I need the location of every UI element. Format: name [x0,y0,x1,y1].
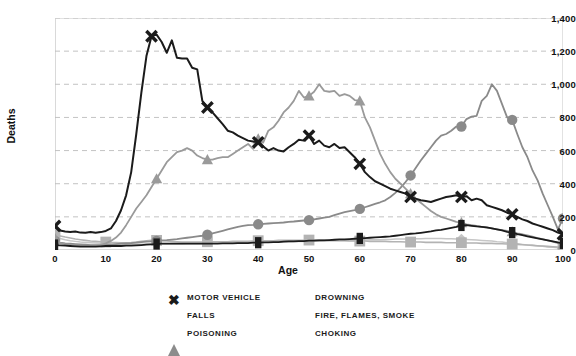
y-axis-tick: 1,200 [528,46,576,57]
rect-data-marker [357,233,363,244]
x-data-marker [355,159,365,169]
square-data-marker [456,237,467,248]
circle-marker-icon [168,309,181,322]
rect-data-marker [55,239,58,250]
rect-data-marker [153,238,159,249]
x-axis-tick: 20 [137,253,177,264]
circle-data-marker [202,230,212,240]
x-data-marker [55,221,60,231]
x-axis-tick: 90 [492,253,532,264]
x-marker-icon: ✖ [168,291,181,304]
y-axis-tick: 400 [528,178,576,189]
x-axis-tick: 30 [187,253,227,264]
square-marker-icon [296,291,309,304]
legend-label: POISONING [187,329,237,338]
chart-legend: ✖MOTOR VEHICLEDROWNINGFALLSFIRE, FLAMES,… [168,288,498,342]
circle-data-marker [355,204,365,214]
x-data-marker [507,209,517,219]
legend-label: CHOKING [315,329,357,338]
y-axis-label-wrap: Deaths [0,96,17,176]
circle-data-marker [253,219,263,229]
legend-label: MOTOR VEHICLE [187,293,261,302]
circle-data-marker [405,170,415,180]
y-axis-label: Deaths [5,91,17,161]
y-axis-tick: 600 [528,145,576,156]
x-axis-tick: 10 [86,253,126,264]
series-motor-vehicle [55,31,563,239]
circle-data-marker [456,121,466,131]
y-axis-tick: 1,400 [528,13,576,24]
legend-item-falls[interactable]: FALLS [168,306,296,324]
plot-canvas [55,18,563,250]
rect-data-marker [458,220,464,231]
triangle-marker-icon [168,327,181,340]
y-axis-tick: 200 [528,211,576,222]
legend-label: FIRE, FLAMES, SMOKE [315,311,415,320]
triangle-data-marker [151,173,162,183]
rect-data-marker [509,227,515,238]
legend-label: FALLS [187,311,215,320]
legend-item-poisoning[interactable]: POISONING [168,324,296,342]
legend-item-choking[interactable]: CHOKING [296,324,498,342]
x-axis-tick: 100 [543,253,576,264]
legend-item-motor-vehicle[interactable]: ✖MOTOR VEHICLE [168,288,296,306]
rect-data-marker [255,237,261,248]
circle-data-marker [304,215,314,225]
x-axis-tick: 70 [391,253,431,264]
x-axis-tick: 80 [441,253,481,264]
legend-item-fire-flames-smoke[interactable]: FIRE, FLAMES, SMOKE [296,306,498,324]
rect-marker-icon [296,327,309,340]
x-marker-icon-glyph: ✖ [168,292,180,308]
y-axis-tick: 1,000 [528,79,576,90]
x-axis-tick: 60 [340,253,380,264]
circle-data-marker [507,115,517,125]
legend-item-drowning[interactable]: DROWNING [296,288,498,306]
y-axis-tick: 800 [528,112,576,123]
x-axis-tick: 40 [238,253,278,264]
square-data-marker [405,237,416,248]
x-axis-label: Age [0,264,576,276]
chart-area: Deaths 02004006008001,0001,2001,400 0102… [0,0,576,282]
triangle-marker-icon-glyph [168,327,180,356]
x-axis-tick: 0 [35,253,75,264]
x-data-marker [202,102,212,112]
diamond-marker-icon [296,309,309,322]
legend-label: DROWNING [315,293,365,302]
x-data-marker [304,130,314,140]
square-data-marker [507,239,518,250]
x-axis-tick: 50 [289,253,329,264]
